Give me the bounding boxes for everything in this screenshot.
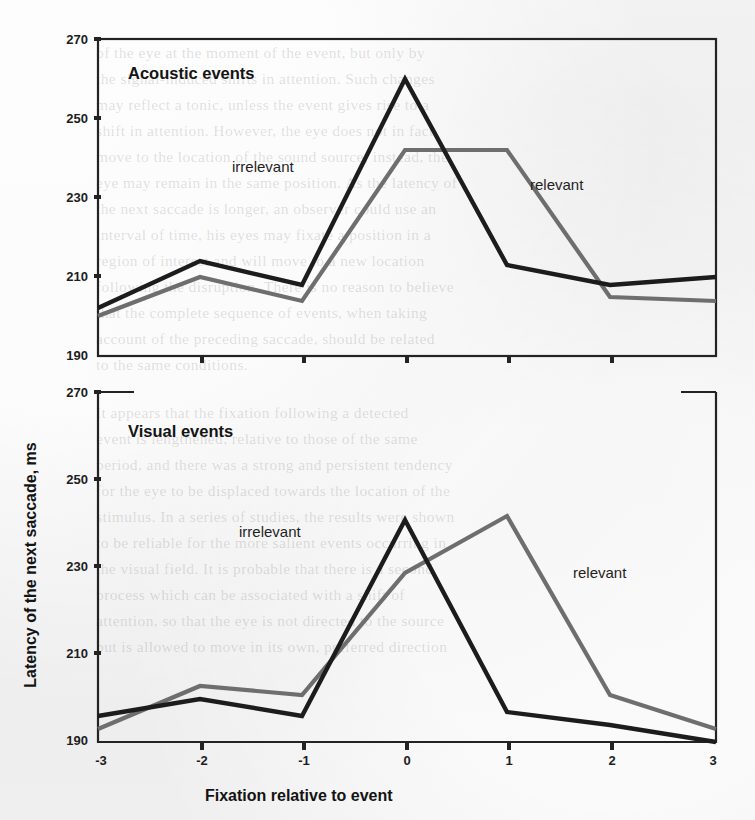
panel-visual-x-ticks xyxy=(200,742,614,750)
y-tick-270-bottom: 270 xyxy=(66,385,88,400)
series-label-irrelevant-acoustic: irrelevant xyxy=(232,158,295,175)
series-line-irrelevant-visual xyxy=(98,520,716,742)
x-tick-2: 2 xyxy=(608,753,615,768)
y-tick-210-bottom: 210 xyxy=(66,646,88,661)
panel-visual-events: 270 250 230 210 190 Visual events irrele… xyxy=(66,385,716,768)
y-axis-title: Latency of the next saccade, ms xyxy=(22,442,39,688)
y-tick-210-top: 210 xyxy=(66,269,88,284)
series-label-relevant-acoustic: relevant xyxy=(530,176,584,193)
figure-svg: 270 250 230 210 190 Acoustic events irre… xyxy=(0,0,755,820)
x-tick-1: 1 xyxy=(505,753,512,768)
y-tick-250-top: 250 xyxy=(66,111,88,126)
series-label-relevant-visual: relevant xyxy=(573,564,627,581)
y-tick-230-top: 230 xyxy=(66,190,88,205)
x-axis-title: Fixation relative to event xyxy=(205,787,393,804)
series-line-relevant-visual xyxy=(98,516,716,729)
x-tick-neg1: -1 xyxy=(298,753,310,768)
y-tick-270-top: 270 xyxy=(66,32,88,47)
figure-container: 270 250 230 210 190 Acoustic events irre… xyxy=(0,0,755,820)
y-tick-250-bottom: 250 xyxy=(66,472,88,487)
panel-title-visual: Visual events xyxy=(128,422,233,440)
y-tick-190-bottom: 190 xyxy=(66,733,88,748)
x-tick-neg3: -3 xyxy=(95,753,107,768)
x-tick-0: 0 xyxy=(403,753,410,768)
panel-acoustic-events: 270 250 230 210 190 Acoustic events irre… xyxy=(66,32,716,363)
series-line-irrelevant-acoustic xyxy=(98,79,716,308)
series-line-relevant-acoustic xyxy=(98,150,716,316)
x-tick-neg2: -2 xyxy=(196,753,208,768)
y-tick-230-bottom: 230 xyxy=(66,559,88,574)
y-tick-190-top: 190 xyxy=(66,348,88,363)
panel-title-acoustic: Acoustic events xyxy=(128,64,255,82)
series-label-irrelevant-visual: irrelevant xyxy=(239,523,302,540)
x-tick-3: 3 xyxy=(709,753,716,768)
